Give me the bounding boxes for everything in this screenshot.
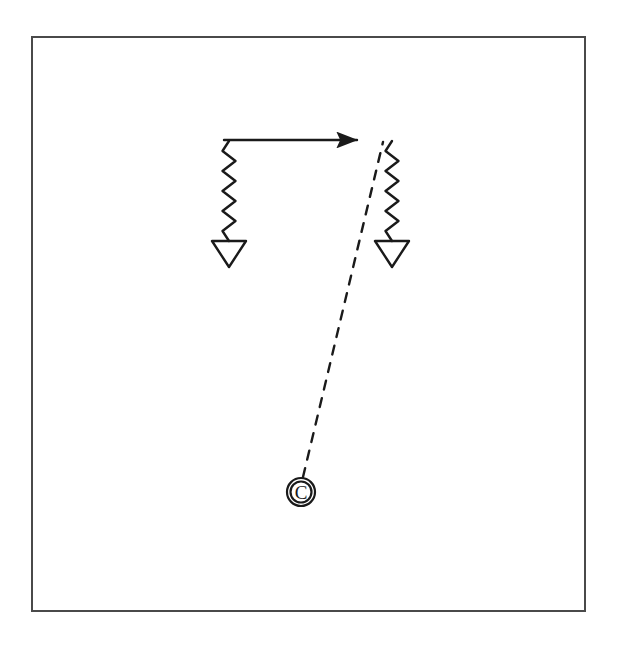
- vertex-c-label: C: [295, 482, 308, 503]
- outer-border: [32, 37, 585, 611]
- figure-root: C: [0, 0, 617, 645]
- diagram-canvas: C: [0, 0, 617, 645]
